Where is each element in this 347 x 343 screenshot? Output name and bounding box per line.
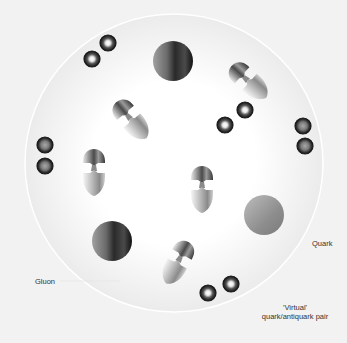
quark-sphere [92, 221, 132, 261]
quark-label: Quark [312, 239, 332, 248]
quark-sphere [244, 195, 284, 235]
virtual-pair-label-line2: quark/antiquark pair [259, 312, 331, 321]
quark-sphere [153, 41, 193, 81]
proton-diagram: Quark Gluon 'Virtual' quark/antiquark pa… [0, 0, 347, 343]
gluon-label: Gluon [35, 277, 55, 286]
virtual-pair-label-line1: 'Virtual' [263, 303, 327, 312]
diagram-canvas [0, 0, 347, 343]
